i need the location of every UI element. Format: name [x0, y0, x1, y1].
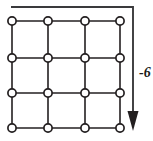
grid-node	[81, 89, 89, 97]
grid-node	[8, 89, 16, 97]
grid-node	[116, 17, 124, 25]
flow-arrow: -6	[11, 7, 151, 131]
arrow-head-down-icon	[128, 111, 139, 131]
grid-node	[44, 124, 52, 132]
grid-vertical-edges	[12, 21, 120, 128]
grid-node	[81, 17, 89, 25]
grid-node	[81, 54, 89, 62]
grid-node	[44, 54, 52, 62]
grid-node	[44, 89, 52, 97]
grid-node	[44, 17, 52, 25]
lattice-diagram: -6	[0, 0, 153, 141]
grid-node	[8, 124, 16, 132]
grid-node	[116, 89, 124, 97]
flow-arrow-label: -6	[139, 65, 151, 80]
grid-node	[116, 124, 124, 132]
diagram-canvas: -6	[0, 0, 153, 141]
flow-arrow-path	[11, 7, 133, 112]
grid-node	[8, 54, 16, 62]
grid-horizontal-edges	[12, 21, 120, 128]
grid-nodes	[8, 17, 124, 132]
grid-node	[81, 124, 89, 132]
grid-node	[116, 54, 124, 62]
grid-node	[8, 17, 16, 25]
